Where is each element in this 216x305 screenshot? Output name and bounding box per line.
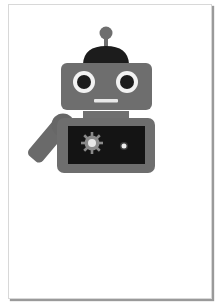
robot-mouth bbox=[94, 99, 118, 103]
robot-illustration bbox=[0, 0, 216, 305]
chest-screen bbox=[68, 126, 145, 164]
indicator-light-icon bbox=[120, 142, 128, 150]
left-eye bbox=[73, 71, 95, 93]
robot-neck bbox=[83, 111, 129, 119]
head-dome bbox=[83, 46, 129, 64]
antenna bbox=[100, 27, 113, 49]
gear-icon bbox=[81, 132, 103, 154]
right-eye bbox=[116, 71, 138, 93]
